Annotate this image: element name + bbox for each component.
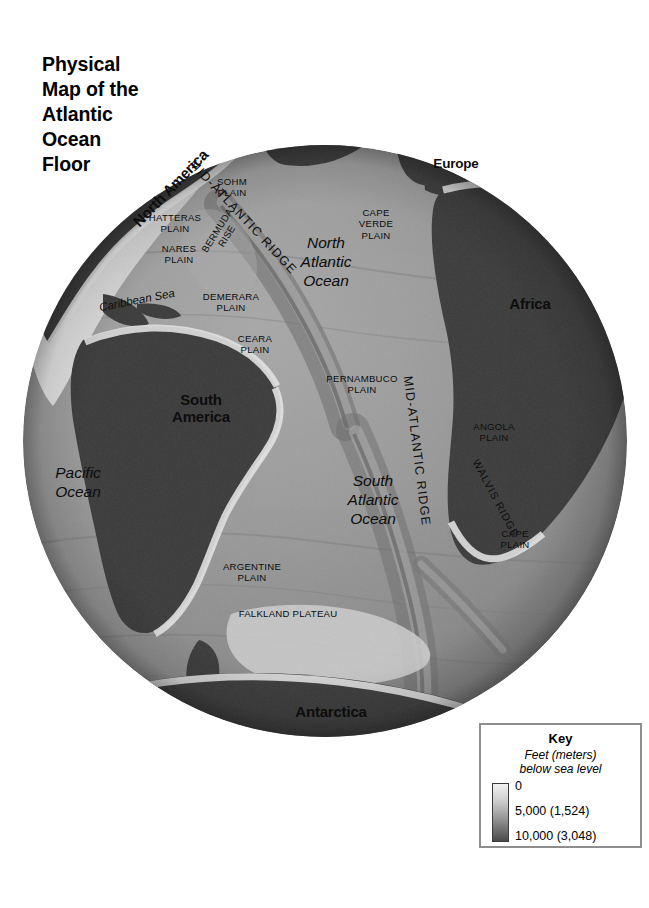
key-tick-0: 0 [515, 779, 522, 793]
key-subtitle: Feet (meters) below sea level [481, 748, 640, 776]
globe-map: North America Europe Africa South Americ… [23, 144, 627, 738]
map-key: Key Feet (meters) below sea level 0 5,00… [479, 723, 642, 848]
key-title: Key [481, 731, 640, 746]
depth-gradient-bar [492, 783, 509, 842]
globe-graphic [23, 144, 627, 738]
key-tick-10000: 10,000 (3,048) [515, 829, 596, 843]
key-tick-5000: 5,000 (1,524) [515, 804, 589, 818]
globe-limb-shading [23, 145, 627, 737]
key-scale: 0 5,000 (1,524) 10,000 (3,048) [481, 782, 640, 844]
